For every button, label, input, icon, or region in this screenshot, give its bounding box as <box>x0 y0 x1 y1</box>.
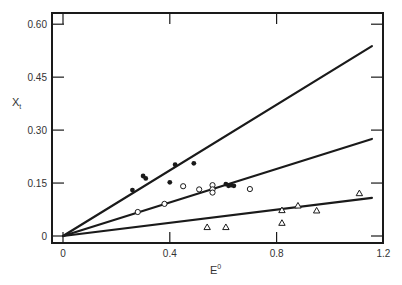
open-circle-marker <box>162 201 167 206</box>
open-triangle-marker <box>223 224 229 230</box>
fit-line <box>63 46 372 236</box>
open-triangle-marker <box>295 202 301 208</box>
filled-circle-marker <box>167 180 172 185</box>
x-axis-label: E0 <box>210 263 221 276</box>
fit-line <box>63 139 372 236</box>
y-tick-label: 0 <box>41 231 47 242</box>
fit-line <box>63 198 372 236</box>
filled-circle-marker <box>191 161 196 166</box>
filled-circle-marker <box>143 176 148 181</box>
y-tick-label: 0.30 <box>28 125 48 136</box>
scatter-chart: 00.150.300.450.60 00.40.81.2 Xt E0 <box>0 0 402 285</box>
plot-frame <box>52 13 383 243</box>
y-axis-ticks: 00.150.300.450.60 <box>28 19 383 242</box>
x-tick-label: 0.8 <box>270 248 284 259</box>
open-triangle-marker <box>313 207 319 213</box>
fit-lines <box>63 46 372 236</box>
data-markers <box>130 161 363 230</box>
open-triangle-marker <box>204 224 210 230</box>
y-axis-label: Xt <box>12 96 21 110</box>
x-tick-label: 0.4 <box>163 248 177 259</box>
open-triangle-marker <box>279 220 285 226</box>
filled-circle-marker <box>173 162 178 167</box>
open-circle-marker <box>181 184 186 189</box>
open-circle-marker <box>135 209 140 214</box>
x-tick-label: 1.2 <box>376 248 390 259</box>
y-tick-label: 0.15 <box>28 178 48 189</box>
open-circle-marker <box>197 187 202 192</box>
x-tick-label: 0 <box>60 248 66 259</box>
filled-circle-marker <box>231 183 236 188</box>
y-tick-label: 0.60 <box>28 19 48 30</box>
y-tick-label: 0.45 <box>28 72 48 83</box>
open-circle-marker <box>247 186 252 191</box>
open-circle-marker <box>210 190 215 195</box>
open-triangle-marker <box>356 190 362 196</box>
filled-circle-marker <box>130 188 135 193</box>
